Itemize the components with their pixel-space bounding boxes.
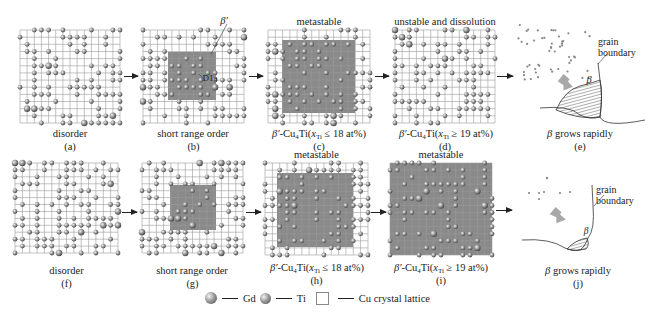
cu-lattice-cell-icon <box>316 292 329 305</box>
panel-h <box>265 163 368 255</box>
panel-h-caption: (h) <box>265 275 368 287</box>
phase-symbol: β′ <box>399 128 407 139</box>
ti-atom-icon <box>260 293 271 304</box>
panel-d-top-label: unstable and dissolution <box>385 16 505 28</box>
legend-lattice-label: Cu crystal lattice <box>359 293 430 304</box>
panel-b-caption: (b) <box>143 141 244 153</box>
panel-j-illustration <box>510 150 652 280</box>
arrow-c-to-d <box>375 76 389 77</box>
legend-ti-label: Ti <box>297 293 306 304</box>
panel-j-phase-label: β <box>580 225 592 237</box>
compound-cu: -Cu <box>402 262 418 273</box>
subscript-ti: Ti <box>316 133 322 141</box>
grain-boundary-text: grain boundary <box>596 184 634 206</box>
composition-relation: ≥ 19 at% <box>452 128 490 139</box>
panel-b-label: short range order <box>133 128 253 140</box>
compound-cu: -Cu <box>280 128 296 139</box>
legend-dash <box>338 298 354 299</box>
panel-f-caption: (f) <box>15 278 118 290</box>
panel-e-phase-label: β <box>583 74 595 86</box>
panel-h-top-label: metastable <box>265 149 368 161</box>
legend: Gd Ti Cu crystal lattice <box>205 289 434 307</box>
compound-ti: Ti <box>421 262 430 273</box>
composition-relation: ≥ 19 at% <box>447 262 485 273</box>
compound-ti: Ti <box>299 128 308 139</box>
compound-ti: Ti <box>426 128 435 139</box>
panel-f-label: disorder <box>15 265 118 277</box>
panel-i-caption: (i) <box>390 275 492 287</box>
compound-ti: Ti <box>297 262 306 273</box>
arrow-a-to-b <box>124 76 138 77</box>
panel-a <box>20 30 120 123</box>
arrow-h-to-i <box>371 212 386 213</box>
compound-cu: -Cu <box>407 128 423 139</box>
panel-g <box>142 163 243 253</box>
d1a-annotation: D1a <box>198 72 222 84</box>
arrow-b-to-c <box>249 76 263 77</box>
panel-j-caption: (j) <box>563 278 593 290</box>
compound-cu: -Cu <box>278 262 294 273</box>
arrow-g-to-h <box>246 212 261 213</box>
phase-symbol: β′ <box>394 262 402 273</box>
legend-dash <box>222 298 238 299</box>
beta-prime-annotation: β′ <box>214 15 234 27</box>
phase-symbol: β′ <box>270 262 278 273</box>
legend-dash <box>276 298 292 299</box>
subscript-ti: Ti <box>314 267 320 275</box>
panel-e-label: β grows rapidly <box>530 128 630 140</box>
panel-d <box>395 30 495 123</box>
panel-j <box>510 150 652 280</box>
subscript-ti: Ti <box>443 133 449 141</box>
panel-e-grain-boundary-label: grain boundary <box>598 36 648 58</box>
phase-symbol: β′ <box>272 128 280 139</box>
composition-relation: ≤ 18 at% <box>325 128 363 139</box>
panel-c <box>268 30 370 123</box>
panel-g-label: short range order <box>132 265 252 277</box>
panel-a-caption: (a) <box>20 141 120 153</box>
grain-boundary-text: grain boundary <box>598 36 636 58</box>
panel-a-label: disorder <box>20 128 120 140</box>
grows-text: grows rapidly <box>550 265 611 276</box>
grows-text: grows rapidly <box>552 128 613 139</box>
arrow-f-to-g <box>122 212 137 213</box>
panel-i-top-label: metastable <box>390 149 492 161</box>
composition-relation: ≤ 18 at% <box>323 262 361 273</box>
panel-c-top-label: metastable <box>268 16 370 28</box>
panel-b <box>143 30 244 123</box>
panel-i <box>390 163 492 255</box>
panel-j-label: β grows rapidly <box>528 265 628 277</box>
legend-gd-label: Gd <box>243 293 256 304</box>
panel-f <box>15 163 118 253</box>
panel-j-grain-boundary-label: grain boundary <box>596 184 646 206</box>
subscript-ti: Ti <box>438 267 444 275</box>
gd-atom-icon <box>205 292 217 304</box>
